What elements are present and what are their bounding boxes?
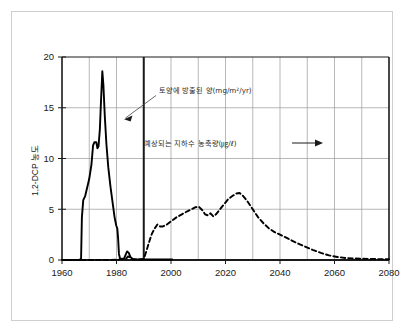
y-axis-title: 1,2-DCP 농도 (30, 145, 40, 196)
annotation-soil-emission-label: 토양에 방출된 양(mg/m²/yr) (159, 86, 252, 95)
x-tick-label: 2020 (215, 267, 236, 278)
chart-plot-area: 1960198020002020204020602080 05101520 1,… (0, 0, 406, 336)
x-axis-tick-labels: 1960198020002020204020602080 (51, 267, 399, 278)
chart-svg: 1960198020002020204020602080 05101520 1,… (0, 0, 406, 336)
y-tick-label: 5 (49, 204, 54, 215)
series-line-1 (62, 71, 172, 260)
y-tick-label: 20 (43, 51, 54, 62)
y-axis-tick-labels: 05101520 (43, 51, 54, 265)
annotation-groundwater-label: 예상되는 지하수 농축량(㎍/ℓ) (144, 139, 237, 149)
x-tick-label: 2060 (324, 267, 345, 278)
x-tick-label: 1980 (106, 267, 127, 278)
y-tick-label: 15 (43, 102, 54, 113)
x-tick-label: 2040 (269, 267, 290, 278)
x-tick-label: 1960 (51, 267, 72, 278)
figure-page: 1960198020002020204020602080 05101520 1,… (0, 0, 406, 336)
y-tick-label: 0 (49, 254, 54, 265)
y-tick-label: 10 (43, 153, 54, 164)
series-line-2 (81, 193, 389, 260)
x-tick-label: 2080 (378, 267, 399, 278)
annotation-soil-emission-arrow (124, 96, 156, 122)
x-tick-label: 2000 (160, 267, 181, 278)
